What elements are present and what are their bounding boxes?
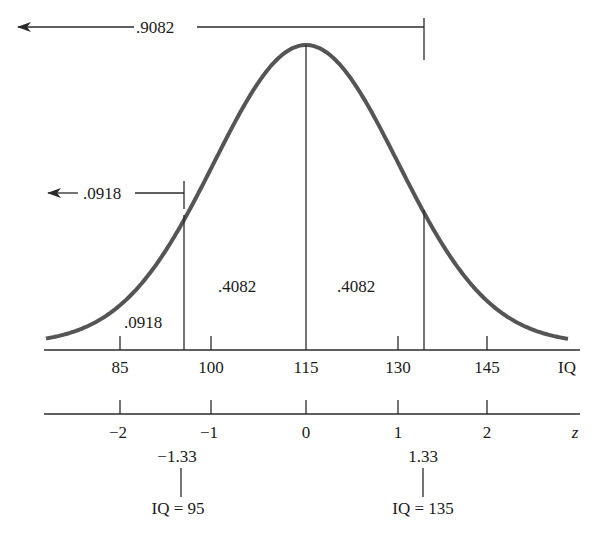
z-axis-label: z [571, 423, 579, 442]
right-annotation: 1.33 IQ = 135 [392, 447, 454, 518]
z-tick-1: 1 [394, 423, 403, 442]
iq-axis: 85 100 115 130 145 IQ [44, 336, 580, 377]
iq-tick-145: 145 [474, 358, 500, 377]
left-bracket-label: .0918 [83, 184, 121, 203]
iq-tick-100: 100 [198, 358, 224, 377]
left-iq-value: IQ = 95 [151, 499, 204, 518]
left-center-area: .4082 [218, 277, 256, 296]
right-center-area: .4082 [337, 277, 375, 296]
z-tick-neg2: −2 [109, 423, 127, 442]
iq-tick-130: 130 [385, 358, 411, 377]
z-axis: −2 −1 0 1 2 z [44, 400, 580, 442]
right-iq-value: IQ = 135 [392, 499, 454, 518]
z-tick-neg1: −1 [200, 423, 218, 442]
normal-curve [46, 45, 568, 339]
left-z-value: −1.33 [157, 447, 196, 466]
iq-tick-85: 85 [112, 358, 129, 377]
left-bracket: .0918 [48, 181, 184, 209]
top-bracket: .9082 [18, 18, 424, 60]
iq-axis-label: IQ [558, 358, 576, 377]
top-bracket-label: .9082 [136, 18, 174, 37]
z-tick-0: 0 [302, 423, 311, 442]
normal-distribution-diagram: .9082 .0918 .0918 .4082 .4082 85 100 115… [0, 0, 605, 538]
iq-tick-115: 115 [294, 358, 319, 377]
z-tick-2: 2 [483, 423, 492, 442]
right-z-value: 1.33 [408, 447, 438, 466]
left-tail-area: .0918 [124, 313, 162, 332]
left-annotation: −1.33 IQ = 95 [151, 447, 204, 518]
